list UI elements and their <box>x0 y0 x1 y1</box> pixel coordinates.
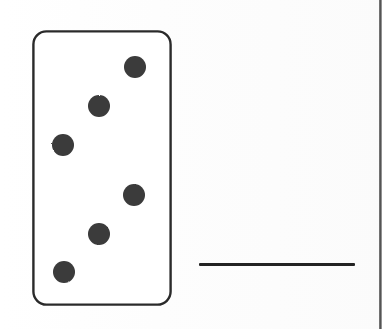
pip-top-right <box>124 56 146 78</box>
answer-blank-line[interactable] <box>199 263 355 266</box>
pip-bottom-left <box>52 134 74 156</box>
domino-graphic <box>32 30 172 306</box>
page-edge-margin <box>382 0 392 329</box>
pip-top-right <box>123 184 145 206</box>
worksheet-page <box>0 0 392 329</box>
domino-tile <box>32 30 172 306</box>
pip-bottom-left <box>53 261 75 283</box>
pip-center <box>88 223 110 245</box>
domino-outline <box>33 31 170 304</box>
pip-center <box>88 95 110 117</box>
